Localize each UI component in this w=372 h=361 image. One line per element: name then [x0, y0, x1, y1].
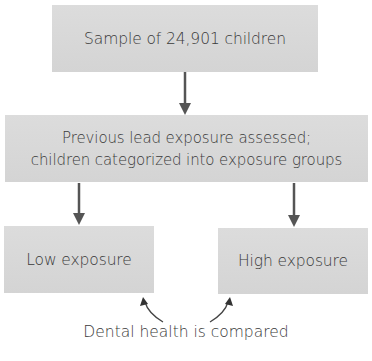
curved-arrow-left-icon — [140, 297, 163, 322]
arrow-down-icon — [73, 183, 85, 225]
comparison-caption: Dental health is compared — [0, 323, 372, 341]
connectors — [0, 0, 372, 361]
curved-arrow-right-icon — [210, 297, 233, 322]
arrow-down-icon — [288, 183, 300, 227]
arrow-down-icon — [179, 72, 191, 115]
